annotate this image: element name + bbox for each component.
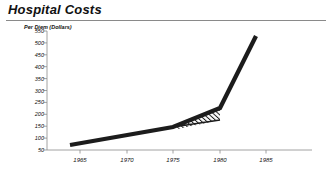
y-tick-50: 50 — [22, 147, 44, 153]
chart-plot-area — [0, 0, 332, 174]
x-tick-1975: 1975 — [153, 157, 193, 163]
y-tick-150: 150 — [22, 123, 44, 129]
y-tick-350: 350 — [22, 76, 44, 82]
x-tick-1965: 1965 — [60, 157, 100, 163]
y-tick-250: 250 — [22, 99, 44, 105]
x-tick-1980: 1980 — [200, 157, 240, 163]
chart-figure: Hospital Costs Per Diem (Dollars) — [0, 0, 332, 174]
x-axis-ticks — [80, 150, 266, 154]
y-tick-400: 400 — [22, 64, 44, 70]
y-tick-100: 100 — [22, 135, 44, 141]
data-line-series-0 — [70, 36, 256, 145]
y-tick-450: 450 — [22, 52, 44, 58]
x-tick-1970: 1970 — [107, 157, 147, 163]
x-tick-1985: 1985 — [246, 157, 286, 163]
y-tick-200: 200 — [22, 111, 44, 117]
y-tick-500: 500 — [22, 40, 44, 46]
y-tick-550: 550 — [22, 28, 44, 34]
y-axis-ticks — [44, 31, 48, 150]
y-tick-300: 300 — [22, 88, 44, 94]
